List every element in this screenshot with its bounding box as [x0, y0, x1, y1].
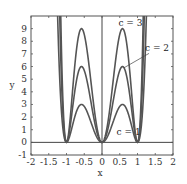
x-tick-label: 0	[99, 157, 105, 167]
x-tick-label: -1.5	[40, 157, 58, 167]
x-tick-label: -1	[62, 157, 71, 167]
chart: -10123456789 -2-1.5-1-0.500.511.52 x y c…	[0, 0, 187, 184]
x-tick-label: 2	[170, 157, 176, 167]
x-tick-label: 1	[135, 157, 141, 167]
y-tick-label: 3	[21, 99, 27, 109]
x-axis-ticks: -2-1.5-1-0.500.511.52	[27, 16, 176, 167]
x-axis-label: x	[97, 168, 102, 178]
annotation-label: c = 3	[118, 18, 142, 28]
x-tick-label: -2	[27, 157, 36, 167]
y-axis-label: y	[8, 80, 15, 90]
x-tick-label: -0.5	[76, 157, 94, 167]
y-tick-label: 7	[21, 49, 27, 59]
y-tick-label: 4	[21, 87, 27, 97]
y-tick-label: 8	[21, 36, 27, 46]
y-tick-label: 1	[21, 125, 27, 135]
plot-area	[31, 0, 173, 155]
y-tick-label: 0	[21, 137, 27, 147]
y-tick-label: 9	[21, 24, 27, 34]
x-tick-label: 0.5	[113, 157, 128, 167]
y-tick-label: 2	[21, 112, 27, 122]
annotation-label: c = 2	[145, 43, 169, 53]
x-tick-label: 1.5	[148, 157, 163, 167]
y-tick-label: 5	[21, 74, 27, 84]
annotation-label: c = 1	[117, 127, 141, 137]
y-tick-label: 6	[21, 62, 27, 72]
